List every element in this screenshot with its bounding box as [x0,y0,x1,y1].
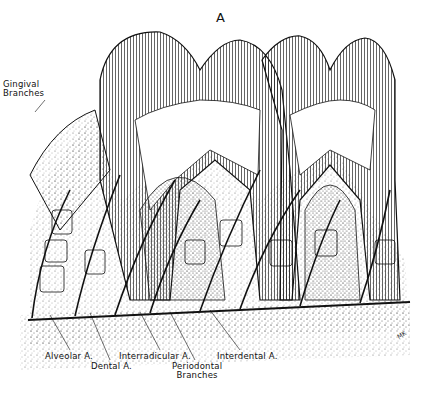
label-periodontal-branches: Periodontal Branches [172,362,222,380]
tooth-vascular-illustration [0,0,434,394]
label-gingival-branches: Gingival Branches [3,80,44,98]
label-interdental-artery: Interdental A. [217,352,278,361]
panel-letter: A [216,10,225,25]
label-line: Branches [172,371,222,380]
label-interradicular-artery: Interradicular A. [119,352,191,361]
label-alveolar-artery: Alveolar A. [45,352,93,361]
label-line: Branches [3,89,44,98]
label-dental-artery: Dental A. [91,362,132,371]
